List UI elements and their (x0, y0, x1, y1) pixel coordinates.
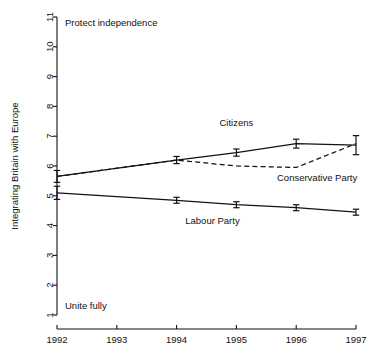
x-tick-label: 1995 (226, 334, 247, 345)
y-tick-label: 10 (44, 42, 55, 53)
y-tick-label: 11 (44, 12, 55, 22)
y-axis-title: Integrating Britain with Europe (9, 102, 20, 229)
series-label-citizens: Citizens (220, 117, 254, 128)
line-chart: 1234567891011Integrating Britain with Eu… (0, 0, 380, 353)
series-label-conservative-party: Conservative Party (277, 172, 358, 183)
y-tick-label: 9 (44, 74, 55, 79)
y-tick-label: 3 (44, 253, 55, 258)
y-axis: 1234567891011Integrating Britain with Eu… (9, 12, 57, 318)
chart-annotations-layer: CitizensConservative PartyLabour PartyPr… (65, 17, 358, 311)
y-tick-label: 5 (44, 193, 55, 198)
y-tick-label: 7 (44, 134, 55, 139)
series-line-labour-party (57, 193, 356, 212)
scale-bottom-label: Unite fully (65, 300, 107, 311)
x-tick-label: 1992 (46, 334, 67, 345)
y-tick-label: 6 (44, 163, 55, 168)
x-tick-label: 1994 (166, 334, 187, 345)
x-tick-label: 1993 (106, 334, 127, 345)
series-label-labour-party: Labour Party (185, 215, 240, 226)
x-tick-label: 1996 (286, 334, 307, 345)
y-tick-label: 8 (44, 104, 55, 109)
chart-container: 1234567891011Integrating Britain with Eu… (0, 0, 380, 353)
x-axis: 199219931994199519961997 (46, 325, 366, 345)
x-tick-label: 1997 (345, 334, 366, 345)
y-tick-label: 1 (44, 312, 55, 317)
y-tick-label: 4 (44, 223, 55, 228)
y-tick-label: 2 (44, 283, 55, 288)
scale-top-label: Protect independence (65, 17, 157, 28)
